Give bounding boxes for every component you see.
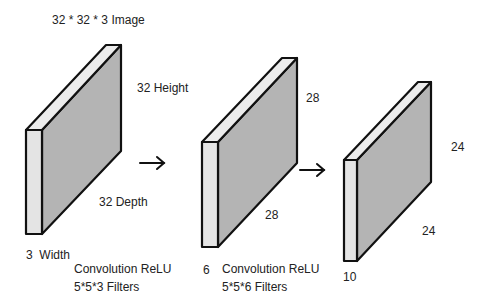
arrow-1 — [140, 157, 164, 169]
operation-2-filters: 5*5*6 Filters — [222, 280, 287, 294]
cnn-diagram — [0, 0, 492, 307]
volume-conv1-output — [202, 58, 297, 247]
arrow-2 — [300, 164, 324, 176]
operation-1-name: Convolution ReLU — [74, 262, 171, 276]
volume-2-front-face — [202, 142, 218, 247]
volume-2-depth-label: 28 — [265, 208, 278, 222]
volume-3-front-face — [344, 160, 357, 261]
volume-1-front-face — [26, 130, 42, 234]
volume-1-depth-label: 32 Depth — [99, 195, 148, 209]
volume-conv2-output — [344, 82, 431, 261]
volume-3-depth-label: 24 — [422, 224, 435, 238]
volume-3-height-label: 24 — [451, 140, 464, 154]
volume-2-width-label: 6 — [203, 263, 210, 277]
diagram-title: 32 * 32 * 3 Image — [52, 13, 145, 27]
volume-1-height-label: 32 Height — [137, 81, 188, 95]
operation-2-name: Convolution ReLU — [222, 262, 319, 276]
volume-1-width-label: 3 Width — [26, 248, 70, 262]
volume-3-width-label: 10 — [343, 270, 356, 284]
volume-2-height-label: 28 — [306, 91, 319, 105]
operation-1-filters: 5*5*3 Filters — [74, 280, 139, 294]
